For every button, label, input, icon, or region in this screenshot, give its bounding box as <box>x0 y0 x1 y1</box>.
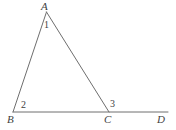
angle-1-label: 1 <box>44 20 49 30</box>
label-D: D <box>157 114 165 125</box>
angle-2-label: 2 <box>21 100 26 110</box>
angle-3-label: 3 <box>110 99 115 109</box>
segment-AC <box>47 12 110 112</box>
label-B: B <box>7 114 14 125</box>
label-A: A <box>41 1 48 12</box>
segment-AB <box>13 12 47 112</box>
figure-svg <box>0 0 176 130</box>
geometry-figure: A B C D 1 2 3 <box>0 0 176 130</box>
label-C: C <box>104 114 111 125</box>
